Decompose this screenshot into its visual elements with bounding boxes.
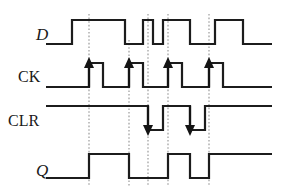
signal-label-q: Q [36, 161, 48, 180]
timing-diagram-svg: DCKCLRQ [0, 0, 281, 191]
signal-labels: DCKCLRQ [8, 25, 49, 180]
waveform-clr [46, 106, 272, 130]
waveform-d [46, 20, 272, 44]
waveform-ck [46, 63, 272, 87]
timing-diagram-container: DCKCLRQ [0, 0, 281, 191]
signal-label-d: D [35, 25, 49, 44]
signal-waveforms [46, 20, 272, 178]
signal-label-clr: CLR [8, 112, 39, 129]
waveform-q [46, 154, 272, 178]
signal-label-ck: CK [18, 68, 41, 85]
